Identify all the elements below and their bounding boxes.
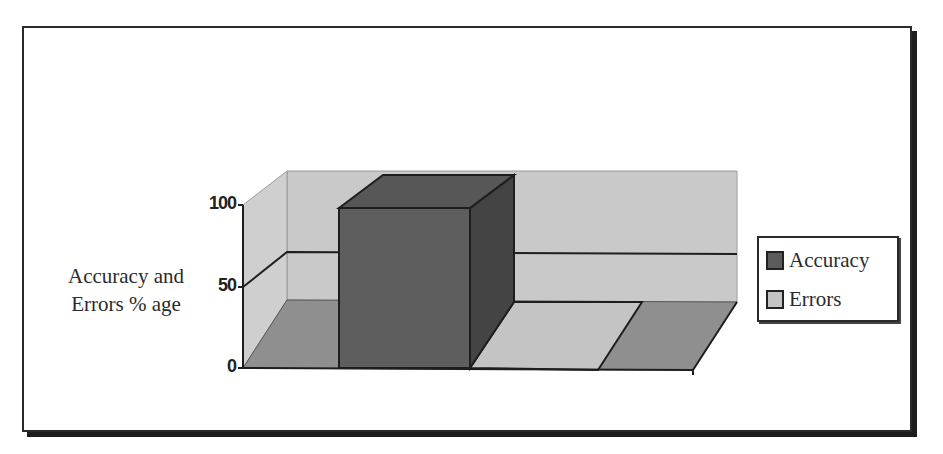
y-axis-title-line2: Errors % age (46, 290, 206, 318)
legend-label-errors: Errors (789, 287, 841, 312)
errors-swatch-icon (766, 290, 784, 309)
legend-item-accuracy[interactable]: Accuracy (766, 248, 869, 273)
y-tick-label-100: 100 (196, 193, 236, 214)
y-tick-label-0: 0 (196, 356, 236, 377)
legend-item-errors[interactable]: Errors (766, 287, 841, 312)
y-axis-title: Accuracy and Errors % age (46, 262, 206, 318)
chart-plot-area (0, 0, 943, 454)
accuracy-swatch-icon (766, 251, 784, 270)
bar-accuracy[interactable] (339, 208, 470, 368)
legend: Accuracy Errors (757, 236, 899, 322)
legend-label-accuracy: Accuracy (789, 248, 869, 273)
y-axis-title-line1: Accuracy and (46, 262, 206, 290)
